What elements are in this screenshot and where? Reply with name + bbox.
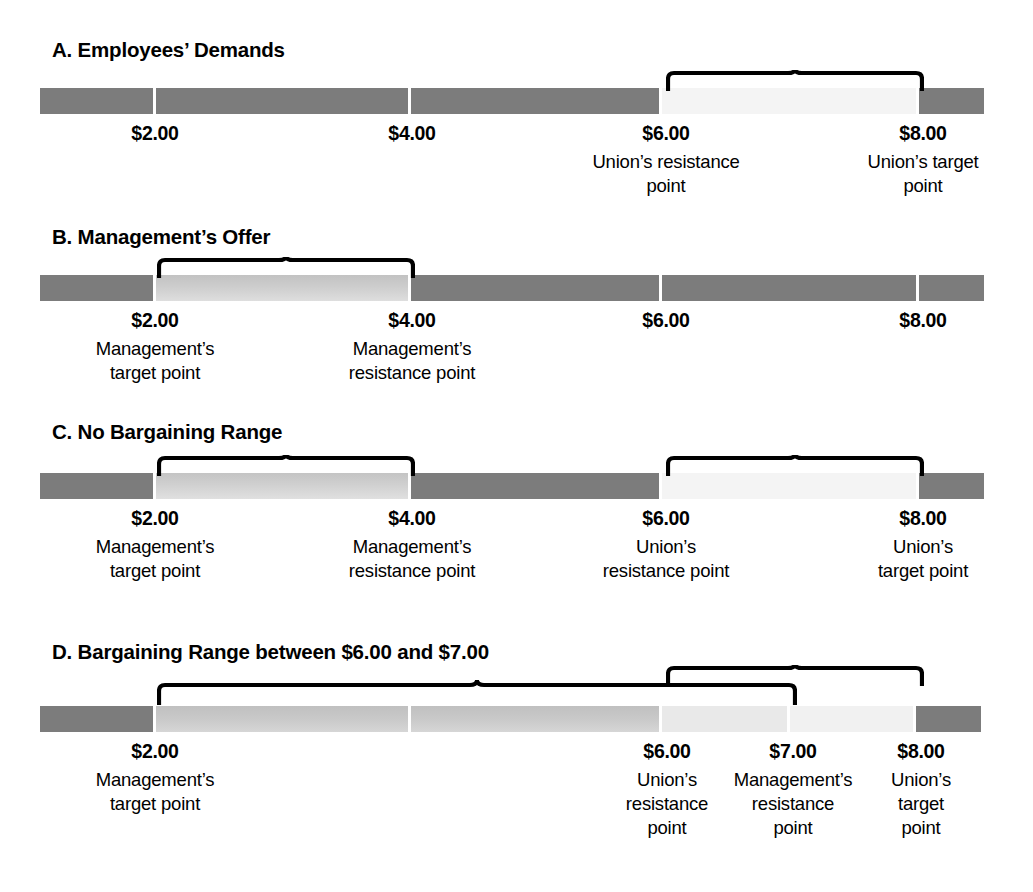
panel-d-amount-4: $8.00 bbox=[897, 740, 944, 763]
panel-d-segment-8-plus bbox=[916, 706, 981, 732]
panel-b: B. Management’s Offer $2.00 $4.00 $6.00 … bbox=[0, 225, 1033, 405]
panel-b-segment-4-to-6 bbox=[411, 275, 659, 301]
panel-c-segment-0-to-2 bbox=[40, 473, 153, 499]
panel-a-caption-3: Union’s resistance point bbox=[541, 150, 791, 198]
panel-a-segment-0-to-2 bbox=[40, 88, 153, 114]
panel-d-union-range-brace bbox=[666, 665, 924, 687]
panel-a-segment-8-plus bbox=[919, 88, 984, 114]
panel-a-union-range-brace bbox=[666, 70, 924, 92]
panel-d: D. Bargaining Range between $6.00 and $7… bbox=[0, 640, 1033, 890]
panel-a: A. Employees’ Demands $2.00 $4.00 $6.00 … bbox=[0, 30, 1033, 210]
panel-a-segment-2-to-4 bbox=[156, 88, 408, 114]
panel-c-union-range-brace bbox=[666, 455, 924, 477]
panel-d-title: D. Bargaining Range between $6.00 and $7… bbox=[52, 640, 489, 664]
panel-d-bar bbox=[40, 706, 990, 732]
panel-a-amount-4: $8.00 bbox=[899, 122, 946, 145]
panel-c-caption-1: Management’s target point bbox=[40, 535, 270, 583]
panel-d-segment-6-to-7 bbox=[662, 706, 787, 732]
panel-d-caption-3: Management’s resistance point bbox=[730, 768, 856, 840]
panel-c-caption-3: Union’s resistance point bbox=[541, 535, 791, 583]
panel-d-caption-4: Union’s target point bbox=[865, 768, 977, 840]
panel-b-amount-4: $8.00 bbox=[899, 309, 946, 332]
panel-a-amount-3: $6.00 bbox=[642, 122, 689, 145]
panel-c-caption-4: Union’s target point bbox=[816, 535, 1031, 583]
panel-b-amount-3: $6.00 bbox=[642, 309, 689, 332]
panel-c-segment-8-plus bbox=[919, 473, 984, 499]
panel-d-segment-4-to-6 bbox=[411, 706, 659, 732]
panel-c-management-range-brace bbox=[157, 455, 415, 477]
panel-b-amount-1: $2.00 bbox=[131, 309, 178, 332]
panel-c: C. No Bargaining Range $2.00 $4.00 $6.00… bbox=[0, 420, 1033, 620]
panel-b-segment-8-plus bbox=[919, 275, 984, 301]
panel-c-amount-2: $4.00 bbox=[388, 507, 435, 530]
panel-c-amount-1: $2.00 bbox=[131, 507, 178, 530]
panel-b-segment-6-to-8 bbox=[662, 275, 916, 301]
panel-a-amount-2: $4.00 bbox=[388, 122, 435, 145]
panel-c-amount-4: $8.00 bbox=[899, 507, 946, 530]
panel-c-title: C. No Bargaining Range bbox=[52, 420, 282, 444]
panel-d-amount-1: $2.00 bbox=[131, 740, 178, 763]
bargaining-range-figure: A. Employees’ Demands $2.00 $4.00 $6.00 … bbox=[0, 0, 1033, 892]
panel-d-caption-1: Management’s target point bbox=[40, 768, 270, 816]
panel-b-segment-0-to-2 bbox=[40, 275, 153, 301]
panel-b-caption-2: Management’s resistance point bbox=[287, 337, 537, 385]
panel-b-amount-2: $4.00 bbox=[388, 309, 435, 332]
panel-d-caption-2: Union’s resistance point bbox=[605, 768, 729, 840]
panel-a-caption-4: Union’s target point bbox=[816, 150, 1031, 198]
panel-c-segment-4-to-6 bbox=[411, 473, 659, 499]
panel-d-amount-2: $6.00 bbox=[643, 740, 690, 763]
panel-a-amount-1: $2.00 bbox=[131, 122, 178, 145]
panel-a-segment-4-to-6 bbox=[411, 88, 659, 114]
panel-a-title: A. Employees’ Demands bbox=[52, 38, 285, 62]
panel-c-caption-2: Management’s resistance point bbox=[287, 535, 537, 583]
panel-b-title: B. Management’s Offer bbox=[52, 225, 270, 249]
panel-d-segment-7-to-8 bbox=[790, 706, 913, 732]
panel-b-management-range-brace bbox=[157, 257, 415, 279]
panel-b-caption-1: Management’s target point bbox=[40, 337, 270, 385]
panel-d-segment-0-to-2 bbox=[40, 706, 153, 732]
panel-d-amount-3: $7.00 bbox=[769, 740, 816, 763]
panel-c-amount-3: $6.00 bbox=[642, 507, 689, 530]
panel-d-segment-2-to-4 bbox=[156, 706, 408, 732]
